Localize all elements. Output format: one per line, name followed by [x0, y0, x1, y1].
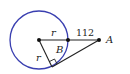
distance-label: 112 [76, 27, 94, 38]
slant-radius-line [39, 40, 52, 67]
angle-b-label: B [55, 44, 63, 55]
circle-intersection-point [66, 38, 70, 42]
radius-label-slant: r [36, 52, 42, 63]
center-point [37, 38, 41, 42]
point-a [97, 38, 101, 42]
point-a-label: A [105, 34, 113, 45]
tangent-diagram: r 112 A B r [0, 0, 130, 74]
radius-label-top: r [51, 27, 57, 38]
